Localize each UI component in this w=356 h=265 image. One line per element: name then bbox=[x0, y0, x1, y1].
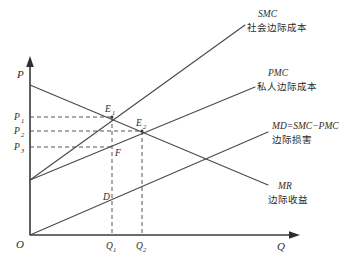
x-tick-labels-group: Q 1 Q 2 bbox=[106, 241, 147, 253]
curve-label-smc-cn: 社会边际成本 bbox=[247, 22, 307, 33]
point-label-f: F bbox=[114, 148, 121, 158]
y-tick-p3-base: P bbox=[13, 142, 20, 152]
externality-diagram-figure: P Q O P 1 P 2 P 3 Q 1 bbox=[0, 0, 356, 265]
y-tick-labels-group: P 1 P 2 P 3 bbox=[13, 112, 25, 154]
y-tick-p1: P 1 bbox=[13, 112, 24, 124]
y-tick-p2-sub: 2 bbox=[21, 131, 25, 138]
point-label-e1: E 1 bbox=[104, 104, 115, 116]
y-tick-p3-sub: 3 bbox=[20, 147, 25, 154]
curve-label-pmc-en: PMC bbox=[267, 68, 289, 78]
curve-label-pmc: PMC 私人边际成本 bbox=[257, 68, 317, 92]
x-axis-label: Q bbox=[277, 240, 285, 252]
guide-lines-group bbox=[30, 117, 142, 235]
x-tick-q2-sub: 2 bbox=[143, 246, 147, 253]
x-tick-q1-sub: 1 bbox=[113, 246, 116, 253]
diagram-canvas: P Q O P 1 P 2 P 3 Q 1 bbox=[0, 0, 356, 265]
y-tick-p2: P 2 bbox=[13, 126, 25, 138]
y-tick-p1-base: P bbox=[13, 112, 20, 122]
curve-label-md-cn: 边际损害 bbox=[272, 134, 312, 145]
curve-label-mr-cn: 边际收益 bbox=[268, 194, 308, 205]
x-tick-q2-base: Q bbox=[136, 241, 143, 251]
point-label-e2-sub: 2 bbox=[143, 123, 147, 130]
y-tick-p2-base: P bbox=[13, 126, 20, 136]
point-label-e1-base: E bbox=[104, 104, 111, 114]
x-tick-q2: Q 2 bbox=[136, 241, 147, 253]
curve-label-mr: MR 边际收益 bbox=[268, 181, 308, 205]
y-axis-arrowhead bbox=[26, 56, 34, 67]
curves-group bbox=[30, 25, 268, 235]
curve-label-smc-en: SMC bbox=[258, 9, 278, 19]
point-label-e2: E 2 bbox=[135, 118, 147, 130]
point-label-e1-sub: 1 bbox=[112, 109, 115, 116]
x-tick-q1-base: Q bbox=[106, 241, 113, 251]
curve-label-mr-en: MR bbox=[277, 181, 292, 191]
curve-label-md-en: MD=SMC−PMC bbox=[271, 121, 339, 131]
curve-label-md: MD=SMC−PMC 边际损害 bbox=[271, 121, 339, 145]
curve-label-pmc-cn: 私人边际成本 bbox=[257, 81, 317, 92]
curve-mr bbox=[30, 85, 268, 185]
x-axis-arrowhead bbox=[289, 231, 300, 239]
curve-label-smc: SMC 社会边际成本 bbox=[247, 9, 307, 33]
y-tick-p3: P 3 bbox=[13, 142, 25, 154]
origin-label: O bbox=[16, 238, 24, 250]
curve-smc bbox=[30, 25, 245, 180]
x-tick-q1: Q 1 bbox=[106, 241, 116, 253]
curve-labels-group: SMC 社会边际成本 PMC 私人边际成本 MD=SMC−PMC 边际损害 MR… bbox=[247, 9, 339, 205]
y-axis-label: P bbox=[16, 68, 24, 80]
y-tick-p1-sub: 1 bbox=[21, 117, 24, 124]
point-label-d: D bbox=[102, 192, 110, 202]
point-label-e2-base: E bbox=[135, 118, 142, 128]
